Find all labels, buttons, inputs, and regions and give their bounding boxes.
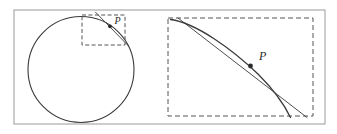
figure-root: P P [0, 0, 337, 134]
point-p-marker [248, 64, 253, 69]
point-p-label: P [258, 49, 267, 63]
point-p-label: P [114, 15, 121, 26]
point-p-marker [108, 24, 112, 28]
figure-canvas: P P [0, 0, 337, 134]
